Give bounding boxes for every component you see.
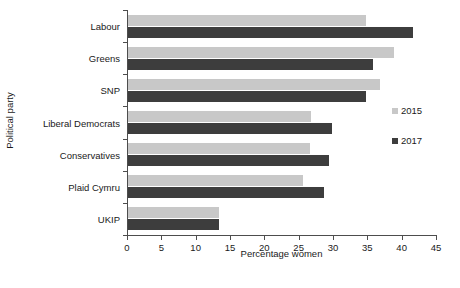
bar-2015-liberal-democrats — [128, 111, 311, 122]
legend-label: 2017 — [401, 136, 422, 146]
legend-swatch-icon — [392, 108, 398, 114]
y-axis-tick — [123, 106, 127, 107]
bar-2017-labour — [128, 27, 413, 38]
legend: 20152017 — [392, 104, 456, 164]
bar-2015-labour — [128, 15, 366, 26]
y-axis-tick — [123, 171, 127, 172]
x-axis-tick — [161, 235, 162, 240]
x-axis-tick — [230, 235, 231, 240]
y-axis-tick-label: Conservatives — [16, 149, 120, 160]
y-axis-tick-label: Plaid Cymru — [16, 181, 120, 192]
bar-2015-conservatives — [128, 143, 310, 154]
y-axis-label-text: Political party — [4, 92, 15, 149]
legend-item-2015: 2015 — [392, 104, 456, 118]
y-axis-tick-label: SNP — [16, 85, 120, 96]
x-axis-tick — [264, 235, 265, 240]
bar-2017-greens — [128, 59, 373, 70]
legend-label: 2015 — [401, 106, 422, 116]
legend-swatch-icon — [392, 138, 398, 144]
x-axis-tick — [367, 235, 368, 240]
y-axis-tick-label: Labour — [16, 21, 120, 32]
y-axis-tick-label: Liberal Democrats — [16, 117, 120, 128]
x-axis-tick — [402, 235, 403, 240]
y-axis-tick-labels: LabourGreensSNPLiberal DemocratsConserva… — [16, 10, 124, 235]
bar-2017-conservatives — [128, 155, 329, 166]
bar-2015-ukip — [128, 207, 219, 218]
y-axis-tick-label: Greens — [16, 53, 120, 64]
y-axis-tick — [123, 203, 127, 204]
bar-chart: Political party LabourGreensSNPLiberal D… — [0, 0, 460, 288]
x-axis-tick — [127, 235, 128, 240]
bar-2015-plaid-cymru — [128, 175, 303, 186]
y-axis-tick — [123, 139, 127, 140]
bar-2017-plaid-cymru — [128, 187, 324, 198]
x-axis-tick — [333, 235, 334, 240]
y-axis-tick — [123, 10, 127, 11]
bar-2015-greens — [128, 47, 394, 58]
x-axis-spine — [127, 235, 436, 236]
bar-2015-snp — [128, 79, 380, 90]
y-axis-tick — [123, 42, 127, 43]
y-axis-tick-label: UKIP — [16, 213, 120, 224]
x-axis-tick — [436, 235, 437, 240]
x-axis-tick — [196, 235, 197, 240]
legend-item-2017: 2017 — [392, 134, 456, 148]
plot-area: 051015202530354045 — [127, 10, 436, 235]
bar-2017-snp — [128, 91, 366, 102]
x-axis-label: Percentage women — [127, 248, 436, 259]
x-axis-tick — [299, 235, 300, 240]
bar-2017-liberal-democrats — [128, 123, 332, 134]
bar-2017-ukip — [128, 219, 219, 230]
y-axis-tick — [123, 74, 127, 75]
